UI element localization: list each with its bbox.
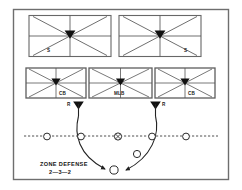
lineman-1[interactable] — [44, 133, 51, 140]
underneath-zone-middle[interactable]: MLB — [89, 68, 152, 98]
underneath-zone-left[interactable]: CB — [26, 68, 86, 98]
underneath-zone-left-label: CB — [59, 91, 67, 96]
lineman-4[interactable] — [149, 133, 156, 140]
deep-zone-right-label: S — [184, 48, 187, 53]
underneath-zone-group: CB MLB — [26, 68, 215, 98]
figure-subtitle: 2—3—2 — [49, 169, 71, 175]
lineman-2[interactable] — [78, 133, 85, 140]
figure-title: ZONE DEFENSE — [40, 161, 88, 167]
zone-defense-diagram: S S — [0, 0, 242, 190]
back[interactable] — [133, 150, 140, 157]
quarterback[interactable] — [110, 166, 118, 174]
lineman-5[interactable] — [183, 133, 190, 140]
deep-zone-left[interactable]: S — [29, 16, 111, 57]
underneath-zone-right[interactable]: CB — [155, 68, 215, 98]
deep-zone-left-label: S — [47, 48, 50, 53]
deep-zone-right[interactable]: S — [119, 16, 201, 57]
rusher-right-label: R — [162, 102, 166, 107]
rusher-left-label: R — [67, 102, 71, 107]
center[interactable] — [114, 133, 121, 140]
zone-defense-figure: S S — [0, 0, 242, 190]
underneath-zone-right-label: CB — [188, 91, 196, 96]
underneath-zone-middle-label: MLB — [114, 91, 125, 96]
